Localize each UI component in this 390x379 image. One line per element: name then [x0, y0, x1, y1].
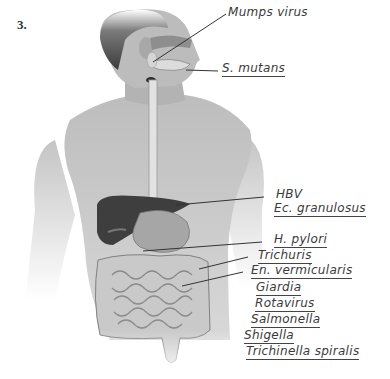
esophagus — [149, 80, 157, 200]
label-rotavirus: Rotavirus — [255, 297, 315, 312]
label-en-vermicularis: En. vermicularis — [251, 264, 352, 279]
head — [100, 9, 200, 88]
label-giardia: Giardia — [256, 281, 301, 296]
label-h-pylori: H. pylori — [274, 233, 327, 248]
label-ec-granulosus: Ec. granulosus — [274, 202, 366, 217]
label-trichuris: Trichuris — [258, 249, 312, 264]
label-hbv: HBV — [276, 187, 302, 201]
label-trichinella-spiralis: Trichinella spiralis — [246, 345, 359, 360]
label-shigella: Shigella — [244, 329, 294, 344]
label-salmonella: Salmonella — [251, 313, 320, 328]
digestive-system-illustration — [0, 0, 390, 379]
stomach — [133, 210, 190, 252]
label-s-mutans: S. mutans — [222, 62, 285, 77]
label-mumps-virus: Mumps virus — [228, 5, 308, 19]
